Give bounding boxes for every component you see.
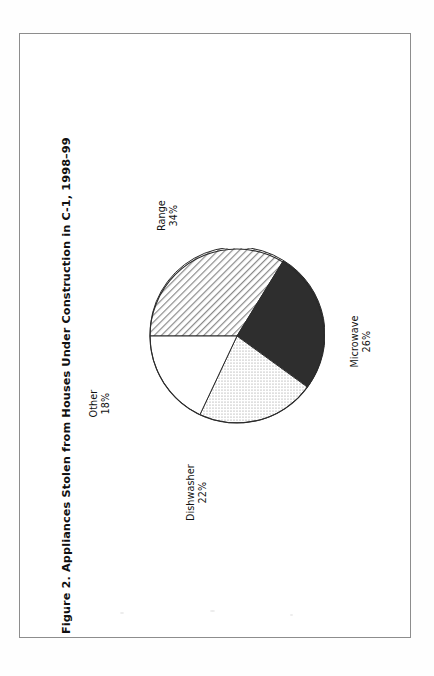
pie-label-other-text: Other <box>88 390 99 418</box>
pie-label-dishwasher: Dishwasher 22% <box>185 464 208 521</box>
scan-speckle <box>210 610 215 612</box>
page-background: Figure 2. Appliances Stolen from Houses … <box>0 0 434 676</box>
pie-label-dishwasher-text: Dishwasher <box>185 464 196 521</box>
scan-speckle <box>290 614 293 616</box>
pie-graphic <box>149 248 325 424</box>
pie-chart: Range 34% Microwave 26% Dishwasher 22% O… <box>20 34 412 639</box>
pie-label-dishwasher-value: 22% <box>196 464 208 521</box>
figure-frame: Figure 2. Appliances Stolen from Houses … <box>19 33 411 638</box>
pie-label-range-value: 34% <box>167 200 179 231</box>
pie-label-range: Range 34% <box>156 200 179 231</box>
pie-label-microwave: Microwave 26% <box>349 316 372 368</box>
pie-label-other-value: 18% <box>100 390 112 418</box>
pie-label-other: Other 18% <box>88 390 111 418</box>
pie-label-microwave-text: Microwave <box>349 316 360 368</box>
scan-speckle <box>64 607 67 609</box>
scan-speckle <box>120 612 124 614</box>
pie-label-microwave-value: 26% <box>361 316 373 368</box>
pie-label-range-text: Range <box>156 200 167 231</box>
